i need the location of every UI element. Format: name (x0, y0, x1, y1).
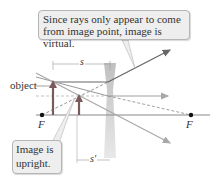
image-distance-label: s′ (89, 153, 97, 164)
virtual-callout-pointer (122, 40, 135, 68)
focal-label-right: F (186, 118, 193, 130)
upright-callout-line1: Image is (16, 143, 58, 157)
ray-toward-focus-extension (108, 96, 191, 115)
diverging-lens (104, 63, 116, 158)
object-distance-label: s (79, 56, 85, 67)
virtual-image-callout: Since rays only appear to come from imag… (38, 10, 190, 40)
object-label: object (10, 79, 37, 91)
upright-callout-line2: upright. (16, 157, 58, 171)
focal-point-left (40, 113, 44, 117)
image-arrow-head (75, 94, 83, 102)
focal-label-left: F (38, 118, 45, 130)
ray-toward-focus-incident (36, 77, 108, 96)
ray-parallel-refracted (108, 50, 170, 82)
upright-image-callout: Image is upright. (12, 140, 62, 174)
focal-point-right (189, 113, 193, 117)
